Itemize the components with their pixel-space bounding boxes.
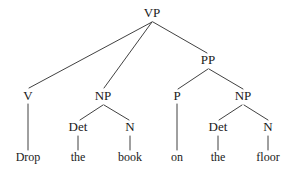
node-label-v: V bbox=[23, 88, 33, 103]
node-label-pp: PP bbox=[201, 52, 215, 67]
terminal-word-floor: floor bbox=[256, 150, 279, 164]
tree-branch-np1-det1 bbox=[80, 105, 103, 120]
tree-branch-pp-np2 bbox=[209, 69, 243, 89]
node-label-det2: Det bbox=[209, 119, 228, 134]
tree-branch-pp-p bbox=[178, 69, 208, 89]
tree-branch-vp-v bbox=[29, 22, 152, 88]
terminal-word-the2: the bbox=[211, 150, 226, 164]
terminal-word-on: on bbox=[171, 150, 183, 164]
terminal-word-book: book bbox=[118, 150, 142, 164]
node-label-np2: NP bbox=[235, 88, 252, 103]
tree-branch-np1-n1 bbox=[104, 105, 129, 120]
syntax-tree-figure: VPPPVNPPNPDetNDetNDropthebookonthefloor bbox=[0, 0, 295, 172]
tree-node-group: VPPPVNPPNPDetNDetNDropthebookonthefloor bbox=[16, 5, 280, 164]
node-label-p: P bbox=[173, 88, 180, 103]
syntax-tree-canvas: VPPPVNPPNPDetNDetNDropthebookonthefloor bbox=[0, 0, 295, 172]
tree-branch-np2-n2 bbox=[244, 105, 268, 120]
tree-branch-vp-np1 bbox=[104, 22, 152, 88]
node-label-n2: N bbox=[263, 119, 273, 134]
tree-branch-np2-det2 bbox=[219, 105, 242, 120]
terminal-word-the1: the bbox=[71, 150, 86, 164]
tree-branch-vp-pp bbox=[153, 22, 207, 53]
tree-edge-group bbox=[28, 22, 268, 150]
node-label-np1: NP bbox=[95, 88, 112, 103]
node-label-vp: VP bbox=[144, 5, 161, 20]
node-label-det1: Det bbox=[69, 119, 88, 134]
terminal-word-drop: Drop bbox=[16, 150, 41, 164]
node-label-n1: N bbox=[125, 119, 135, 134]
